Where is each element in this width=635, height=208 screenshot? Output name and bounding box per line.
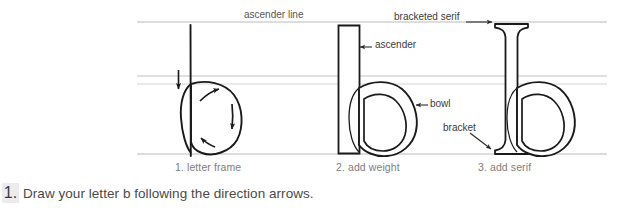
annotation-ascender: ascender <box>375 39 416 50</box>
bracket-leader-line <box>470 133 491 149</box>
step-number-marker: 1. <box>2 183 19 203</box>
figure-add-serif <box>466 22 575 156</box>
worksheet-page: ascender line bracketed serif ascender b… <box>0 0 635 208</box>
caption-step-2: 2. add weight <box>336 161 400 173</box>
figure-captions: 1. letter frame 2. add weight 3. add ser… <box>137 161 607 179</box>
annotation-bowl: bowl <box>430 98 451 109</box>
caption-step-1: 1. letter frame <box>175 161 241 173</box>
annotation-ascender-line: ascender line <box>244 9 303 20</box>
stem-rectangle <box>339 26 360 154</box>
direction-arrow-bowl-upleft <box>201 138 215 147</box>
bowl-oval-skeleton <box>191 82 242 154</box>
annotation-bracket: bracket <box>443 122 476 133</box>
annotation-bracketed-serif: bracketed serif <box>394 11 460 22</box>
direction-arrow-bowl-upright <box>200 89 219 101</box>
caption-step-3: 3. add serif <box>478 161 531 173</box>
instruction-row: 1. Draw your letter b following the dire… <box>0 183 635 208</box>
direction-arrow-bowl-down <box>232 104 233 129</box>
instruction-text: Draw your letter b following the directi… <box>23 184 314 203</box>
bowl-oval-left-skeleton <box>181 84 191 153</box>
figure-letter-frame <box>179 25 242 156</box>
